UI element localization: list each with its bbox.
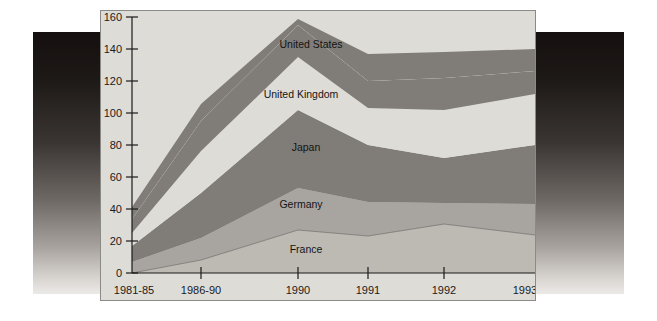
y-axis-tick-label: 160 [104, 11, 122, 23]
series-label-france: France [290, 243, 323, 255]
x-axis-tick-label: 1981-85 [114, 284, 154, 296]
x-axis-tick-label: 1992 [432, 284, 456, 296]
screenshot-root: 160 140 120 100 80 60 40 20 0 1981-85 19… [0, 0, 657, 321]
stacked-area-chart: 160 140 120 100 80 60 40 20 0 1981-85 19… [101, 11, 535, 300]
x-axis-tick-label: 1993 [513, 284, 535, 296]
y-axis-tick-label: 20 [110, 235, 122, 247]
y-axis-labels: 160 140 120 100 80 60 40 20 0 [104, 11, 122, 279]
series-label-japan: Japan [292, 141, 321, 153]
y-axis-tick-label: 0 [116, 267, 122, 279]
chart-areas [132, 19, 535, 273]
y-axis-tick-label: 120 [104, 75, 122, 87]
x-axis-tick-label: 1991 [356, 284, 380, 296]
y-axis-tick-label: 100 [104, 107, 122, 119]
chart-panel: 160 140 120 100 80 60 40 20 0 1981-85 19… [100, 10, 536, 301]
y-axis-tick-label: 140 [104, 43, 122, 55]
y-axis-tick-label: 80 [110, 139, 122, 151]
x-axis-tick-label: 1986-90 [181, 284, 221, 296]
x-axis-labels: 1981-85 1986-90 1990 1991 1992 1993 [114, 284, 535, 296]
series-label-germany: Germany [279, 198, 323, 210]
x-axis-tick-label: 1990 [286, 284, 310, 296]
series-label-united-kingdom: United Kingdom [264, 88, 339, 100]
series-label-united-states: United States [279, 38, 342, 50]
y-axis-tick-label: 60 [110, 171, 122, 183]
y-axis-tick-label: 40 [110, 203, 122, 215]
